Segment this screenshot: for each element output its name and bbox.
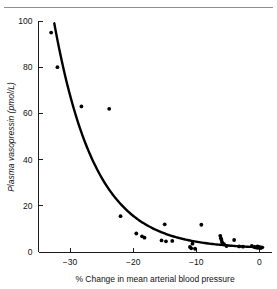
data-point: [199, 223, 203, 227]
y-tick-label: 60: [23, 108, 33, 118]
data-point: [260, 245, 264, 249]
data-point: [134, 232, 138, 236]
y-axis-ticks: [39, 21, 43, 252]
data-point: [170, 239, 174, 243]
y-tick-label: 20: [23, 201, 33, 211]
x-tick-label: −30: [63, 257, 78, 267]
x-tick-label: −10: [189, 257, 204, 267]
data-point: [193, 247, 197, 251]
data-point: [164, 239, 168, 243]
axis-lines: [39, 21, 273, 253]
data-point: [49, 31, 53, 35]
y-tick-label: 0: [28, 247, 33, 257]
figure-container: 020406080100 −30−20−100 % Change in mean…: [0, 0, 277, 289]
scatter-plot: 020406080100 −30−20−100 % Change in mean…: [0, 0, 277, 289]
y-tick-label: 100: [18, 16, 32, 26]
x-tick-label: −20: [126, 257, 141, 267]
y-tick-label: 80: [23, 62, 33, 72]
y-axis-title: Plasma vasopressin (pmol/L): [6, 82, 16, 192]
y-axis-tick-labels: 020406080100: [18, 16, 32, 257]
data-points-layer: [49, 31, 264, 251]
data-point: [237, 245, 241, 249]
data-point: [163, 222, 167, 226]
data-point: [241, 245, 245, 249]
x-axis-ticks: [70, 248, 259, 252]
data-point: [80, 105, 84, 109]
data-point: [160, 239, 164, 243]
x-tick-label: 0: [257, 257, 262, 267]
data-point: [119, 214, 123, 218]
data-point: [232, 238, 236, 242]
x-axis-title: % Change in mean arterial blood pressure: [75, 274, 235, 284]
data-point: [191, 242, 195, 246]
data-point: [56, 65, 60, 69]
data-point: [189, 246, 193, 250]
x-axis-tick-labels: −30−20−100: [63, 257, 262, 267]
data-point: [143, 236, 147, 240]
data-point: [225, 244, 229, 248]
data-point: [107, 107, 111, 111]
exponential-fit-curve: [54, 23, 263, 247]
y-tick-label: 40: [23, 155, 33, 165]
